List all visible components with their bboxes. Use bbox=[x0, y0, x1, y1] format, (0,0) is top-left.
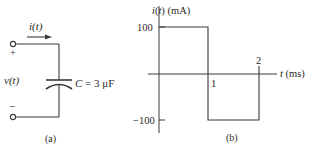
capacitor-label: C = 3 μF bbox=[75, 77, 114, 89]
current-arrow-icon bbox=[45, 35, 52, 40]
figure: i(t) + v(t) − C = 3 μF (a) i(t) (mA) 100… bbox=[0, 0, 313, 153]
top-terminal bbox=[10, 41, 15, 46]
current-label: i(t) bbox=[29, 20, 43, 33]
current-waveform-chart bbox=[148, 6, 277, 133]
plus-sign: + bbox=[10, 47, 16, 58]
caption-a: (a) bbox=[45, 133, 56, 145]
circuit-diagram bbox=[10, 37, 72, 120]
y-tick-label-100: 100 bbox=[137, 22, 153, 33]
voltage-label: v(t) bbox=[4, 74, 20, 87]
y-axis-label: i(t) (mA) bbox=[152, 5, 191, 17]
y-tick-label-neg100: −100 bbox=[133, 115, 155, 126]
x-tick-label-2: 2 bbox=[256, 55, 261, 66]
caption-b: (b) bbox=[226, 132, 238, 144]
minus-sign: − bbox=[9, 100, 15, 112]
bottom-terminal bbox=[10, 114, 15, 119]
x-tick-label-1: 1 bbox=[211, 78, 216, 89]
x-axis-label: t (ms) bbox=[280, 68, 305, 80]
